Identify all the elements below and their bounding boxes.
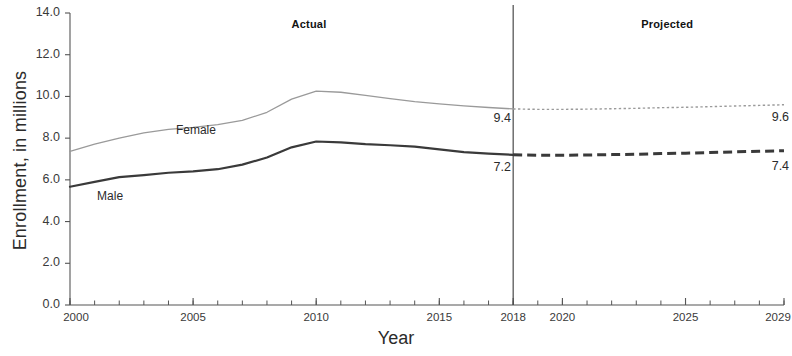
period-label-projected: Projected xyxy=(641,18,693,30)
series-label-male: Male xyxy=(97,189,123,203)
x-tick-label: 2010 xyxy=(286,311,346,323)
y-tick-label: 10.0 xyxy=(18,88,60,102)
y-tick-label: 0.0 xyxy=(18,297,60,311)
y-axis-ticks xyxy=(65,13,70,305)
series-male-actual xyxy=(70,141,513,186)
plot-area xyxy=(0,0,792,356)
series-label-female: Female xyxy=(176,123,216,137)
enrollment-line-chart: Enrollment, in millions Year 0.02.04.06.… xyxy=(0,0,792,356)
value-label-7-2: 7.2 xyxy=(494,160,511,174)
x-tick-label: 2005 xyxy=(163,311,223,323)
series-female-actual xyxy=(70,91,513,151)
axes xyxy=(70,13,784,305)
y-tick-label: 4.0 xyxy=(18,214,60,228)
y-tick-label: 6.0 xyxy=(18,172,60,186)
x-tick-label: 2025 xyxy=(656,311,716,323)
x-axis-minor-ticks xyxy=(70,301,784,306)
series-female-projected xyxy=(513,105,784,110)
y-tick-label: 14.0 xyxy=(18,5,60,19)
y-tick-label: 2.0 xyxy=(18,255,60,269)
y-tick-label: 12.0 xyxy=(18,47,60,61)
x-tick-label: 2020 xyxy=(532,311,592,323)
x-axis-title: Year xyxy=(0,328,792,349)
value-label-7-4: 7.4 xyxy=(772,159,789,173)
value-label-9-4: 9.4 xyxy=(494,111,511,125)
x-tick-label: 2000 xyxy=(46,311,106,323)
data-series xyxy=(70,91,784,187)
series-male-projected xyxy=(513,151,784,156)
x-tick-label: 2015 xyxy=(409,311,469,323)
x-axis-major-ticks xyxy=(70,298,784,305)
y-tick-label: 8.0 xyxy=(18,130,60,144)
x-tick-label: 2029 xyxy=(748,311,792,323)
value-label-9-6: 9.6 xyxy=(772,110,789,124)
period-label-actual: Actual xyxy=(292,18,327,30)
